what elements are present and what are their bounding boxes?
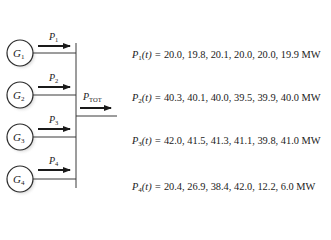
eq-values: 20.4, 26.9, 38.4, 42.0, 12.2, 6.0 MW <box>164 181 316 192</box>
generator-g4: G4 P4 <box>6 155 76 197</box>
generator-g2: G2 P2 <box>6 72 76 113</box>
eq-arg: (t) = <box>142 49 164 60</box>
power-label: P4 <box>48 155 59 167</box>
eq-arg: (t) = <box>142 135 164 146</box>
eq-values: 42.0, 41.5, 41.3, 41.1, 39.8, 41.0 MW <box>164 135 321 146</box>
eq-arg: (t) = <box>142 92 164 103</box>
equation-p4: P4(t) = 20.4, 26.9, 38.4, 42.0, 12.2, 6.… <box>132 181 315 193</box>
eq-values: 20.0, 19.8, 20.1, 20.0, 20.0, 19.9 MW <box>164 49 321 60</box>
generator-g1: G1 P1 <box>6 31 76 71</box>
power-label: P2 <box>48 72 58 84</box>
equation-p1: P1(t) = 20.0, 19.8, 20.1, 20.0, 20.0, 19… <box>132 49 321 61</box>
equation-p3: P3(t) = 42.0, 41.5, 41.3, 41.1, 39.8, 41… <box>132 135 321 147</box>
power-label: P3 <box>48 114 58 126</box>
generator-g3: G3 P3 <box>6 114 76 155</box>
eq-values: 40.3, 40.1, 40.0, 39.5, 39.9, 40.0 MW <box>164 92 321 103</box>
eq-arg: (t) = <box>142 181 164 192</box>
ptot-label: PTOT <box>82 91 102 103</box>
equation-p2: P2(t) = 40.3, 40.1, 40.0, 39.5, 39.9, 40… <box>132 92 321 104</box>
power-label: P1 <box>48 31 58 43</box>
